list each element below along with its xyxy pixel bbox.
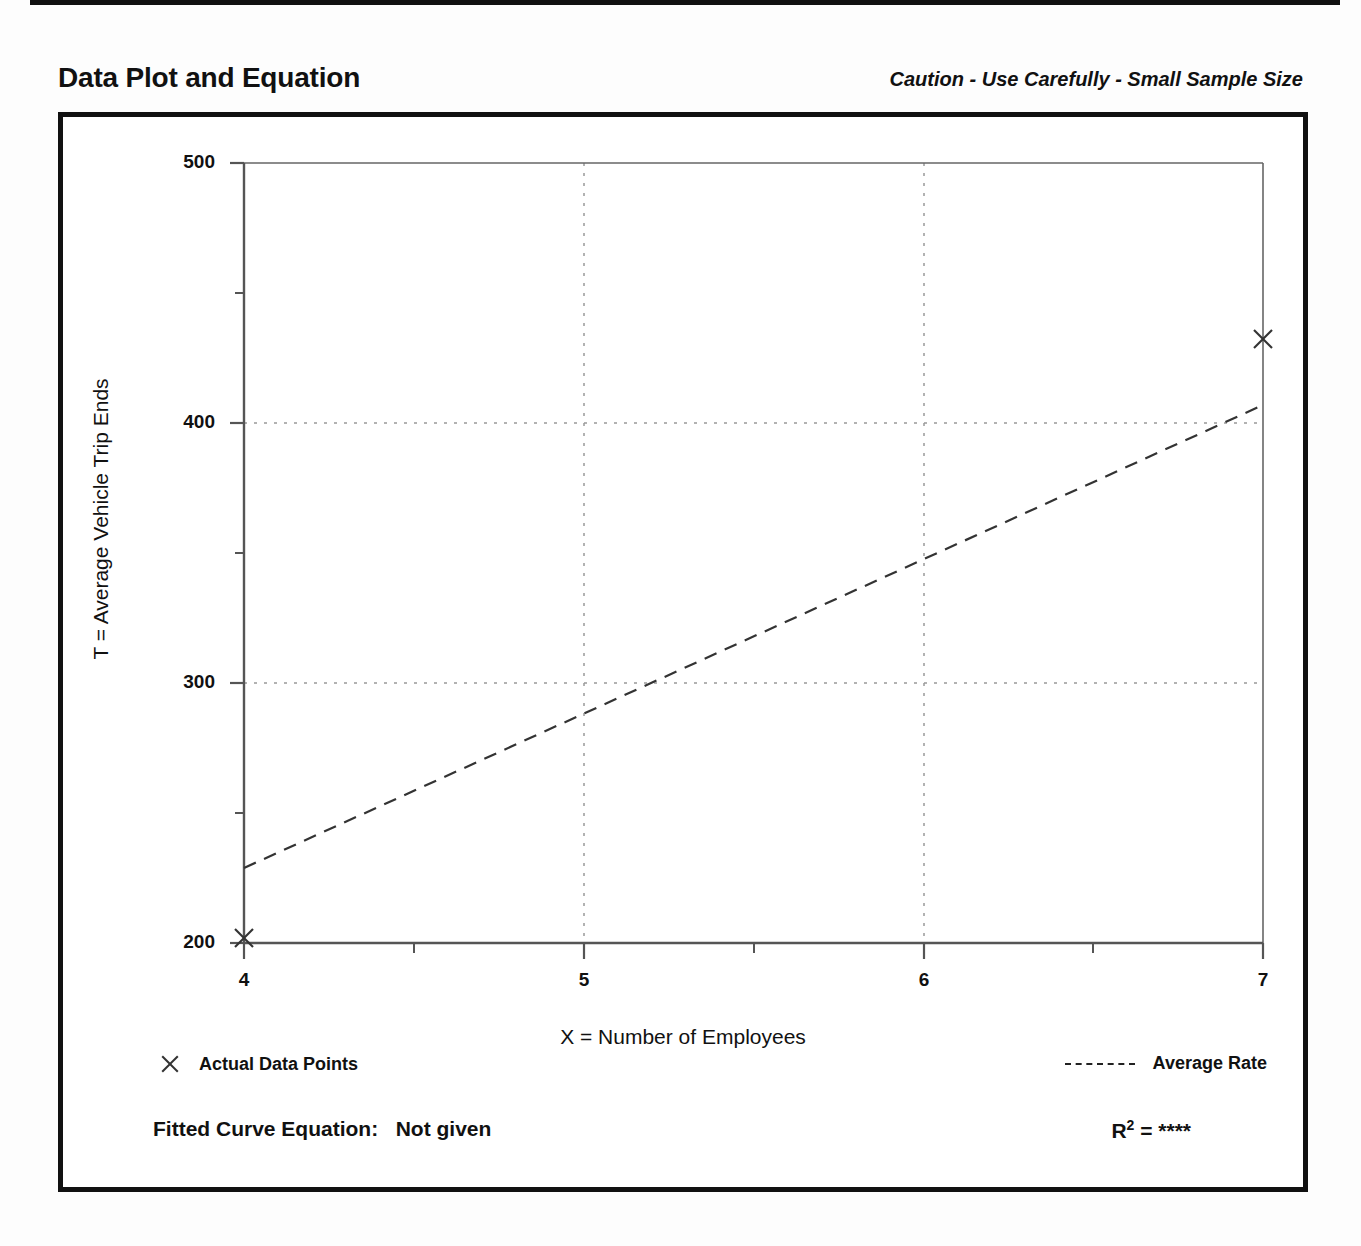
- average-rate-trendline: [244, 405, 1263, 868]
- chart-legend: Actual Data Points Average Rate: [63, 1053, 1303, 1093]
- y-tick-label-300: 300: [123, 671, 215, 693]
- y-tick-label-400: 400: [123, 411, 215, 433]
- x-tick-label-4: 4: [214, 969, 274, 991]
- caution-note: Caution - Use Carefully - Small Sample S…: [890, 68, 1303, 91]
- fitted-curve-equation: Fitted Curve Equation: Not given: [153, 1117, 491, 1141]
- x-tick-label-6: 6: [894, 969, 954, 991]
- r-squared-stars: ****: [1158, 1119, 1191, 1142]
- x-cross-icon: [159, 1053, 181, 1075]
- preceding-block-bottom-rule: [30, 0, 1340, 5]
- r-squared-value: R2 = ****: [1111, 1117, 1191, 1143]
- fitted-curve-equation-label: Fitted Curve Equation:: [153, 1117, 378, 1140]
- legend-label-data-points: Actual Data Points: [199, 1054, 358, 1075]
- fitted-curve-equation-value: Not given: [396, 1117, 492, 1140]
- legend-label-average-rate: Average Rate: [1153, 1053, 1267, 1074]
- x-axis-title: X = Number of Employees: [63, 1025, 1303, 1049]
- r-squared-equals: =: [1140, 1119, 1152, 1142]
- dashed-line-icon: [1065, 1063, 1135, 1065]
- header: Data Plot and Equation Caution - Use Car…: [0, 62, 1361, 106]
- x-tick-label-5: 5: [554, 969, 614, 991]
- y-axis-title: T = Average Vehicle Trip Ends: [89, 359, 113, 679]
- r-squared-exponent: 2: [1127, 1117, 1135, 1133]
- y-tick-label-200: 200: [123, 931, 215, 953]
- page-root: Data Plot and Equation Caution - Use Car…: [0, 0, 1361, 1246]
- y-tick-label-500: 500: [123, 151, 215, 173]
- equation-footer: Fitted Curve Equation: Not given R2 = **…: [63, 1117, 1303, 1165]
- legend-entry-data-points: Actual Data Points: [159, 1053, 358, 1075]
- legend-entry-average-rate: Average Rate: [1065, 1053, 1267, 1074]
- x-tick-label-7: 7: [1233, 969, 1293, 991]
- figure-box: 500 400 300 200 4 5 6 7 T = Average Vehi…: [58, 112, 1308, 1192]
- chart-region: 500 400 300 200 4 5 6 7 T = Average Vehi…: [63, 117, 1303, 1187]
- r-squared-label: R: [1111, 1119, 1126, 1142]
- page-title: Data Plot and Equation: [58, 62, 360, 94]
